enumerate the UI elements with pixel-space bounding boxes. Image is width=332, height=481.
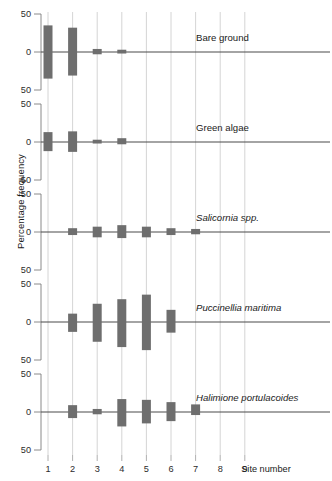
- panel-3: 50050Salicornia spp.: [21, 189, 330, 275]
- y-tick-label: 0: [26, 47, 31, 57]
- bar-site-3: [93, 227, 102, 238]
- bar-site-6: [167, 228, 176, 235]
- panel-label: Puccinellia maritima: [196, 302, 281, 313]
- panel-label: Bare ground: [196, 32, 249, 43]
- bar-site-3: [93, 49, 102, 54]
- bar-site-7: [191, 229, 200, 234]
- bar-site-3: [93, 140, 102, 144]
- y-tick-label: 0: [26, 227, 31, 237]
- bar-site-4: [117, 299, 126, 347]
- bar-site-2: [68, 131, 77, 152]
- bar-site-3: [93, 409, 102, 414]
- y-tick-label: 50: [21, 369, 31, 379]
- bar-site-4: [117, 225, 126, 238]
- x-tick-label-7: 7: [193, 464, 198, 474]
- x-tick-label-5: 5: [144, 464, 149, 474]
- panel-label: Salicornia spp.: [196, 212, 259, 223]
- x-tick-label-8: 8: [218, 464, 223, 474]
- y-tick-label: 50: [21, 9, 31, 19]
- y-tick-label: 0: [26, 137, 31, 147]
- bar-site-3: [93, 304, 102, 342]
- bar-site-6: [167, 310, 176, 333]
- chart-canvas: 50050Bare ground50050Green algae50050Sal…: [0, 0, 332, 481]
- x-tick-label-1: 1: [45, 464, 50, 474]
- bar-site-6: [167, 402, 176, 421]
- bar-site-7: [191, 404, 200, 415]
- bar-site-5: [142, 227, 151, 238]
- bar-site-4: [117, 399, 126, 426]
- panel-2: 50050Green algae: [21, 99, 330, 185]
- x-tick-label-6: 6: [168, 464, 173, 474]
- panel-4: 50050Puccinellia maritima: [21, 279, 330, 365]
- x-tick-label-2: 2: [70, 464, 75, 474]
- y-tick-label: 0: [26, 407, 31, 417]
- panel-label: Halimione portulacoides: [196, 392, 299, 403]
- panel-label: Green algae: [196, 122, 249, 133]
- panel-5: 50050Halimione portulacoides: [21, 369, 330, 455]
- x-axis-title: Site number: [241, 464, 291, 474]
- y-tick-label: 50: [21, 99, 31, 109]
- y-tick-label: 50: [21, 279, 31, 289]
- bar-site-4: [117, 138, 126, 144]
- x-tick-label-3: 3: [95, 464, 100, 474]
- y-tick-label: 50: [21, 355, 31, 365]
- y-tick-label: 50: [21, 85, 31, 95]
- bar-site-2: [68, 28, 77, 76]
- bar-site-2: [68, 405, 77, 418]
- bar-site-4: [117, 50, 126, 54]
- bar-site-1: [44, 132, 53, 151]
- bar-site-2: [68, 228, 77, 235]
- percentage-frequency-figure: Percentage frequency 50050Bare ground500…: [0, 0, 332, 481]
- bar-site-2: [68, 314, 77, 332]
- bar-site-5: [142, 295, 151, 350]
- y-tick-label: 50: [21, 445, 31, 455]
- y-axis-title: Percentage frequency: [15, 132, 26, 272]
- x-axis: 123456789Site number: [45, 455, 290, 474]
- x-tick-label-4: 4: [119, 464, 124, 474]
- y-tick-label: 0: [26, 317, 31, 327]
- bar-site-1: [44, 25, 53, 78]
- bar-site-5: [142, 400, 151, 424]
- panel-1: 50050Bare ground: [21, 9, 330, 95]
